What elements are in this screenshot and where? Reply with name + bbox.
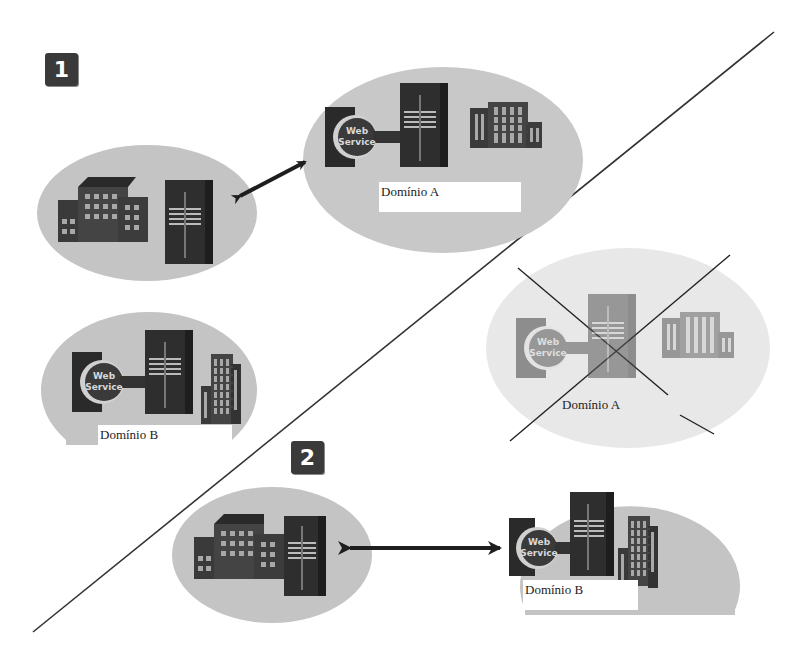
web-service-text-line2: Service <box>529 348 566 358</box>
step-2-badge: 2 <box>291 441 324 474</box>
server-tower-icon <box>145 330 193 414</box>
web-service-text-line2: Service <box>520 548 557 558</box>
web-service-text-line1: Web <box>93 371 116 381</box>
diagram-canvas: Web Service Web Service <box>0 0 803 668</box>
server-tower-icon <box>284 516 326 596</box>
domain-b-label: Domínio B <box>98 425 232 447</box>
web-service-text-line2: Service <box>338 137 375 147</box>
bidirectional-arrow-step1 <box>240 162 305 196</box>
web-service-text-line1: Web <box>528 537 551 547</box>
web-service-text-line1: Web <box>537 337 560 347</box>
step-1-badge: 1 <box>45 53 78 86</box>
server-tower-icon <box>400 83 448 167</box>
server-tower-icon <box>165 180 213 264</box>
web-service-text-line2: Service <box>85 382 122 392</box>
domain-a-label: Domínio A <box>379 182 521 212</box>
domain-a-crossed-label: Domínio A <box>560 395 678 419</box>
server-tower-icon <box>588 294 636 378</box>
web-service-text-line1: Web <box>346 126 369 136</box>
server-tower-icon <box>570 492 614 576</box>
domain-b-step2-label: Domínio B <box>523 580 638 610</box>
